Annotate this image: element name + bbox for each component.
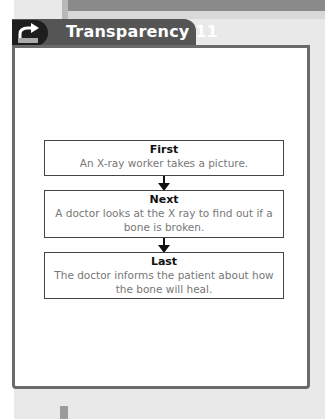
step-label: Next [45, 193, 283, 206]
transparency-icon [12, 20, 48, 46]
background-edge-bottom [60, 406, 68, 419]
step-label: Last [45, 255, 283, 268]
step-text: A doctor looks at the X ray to find out … [45, 206, 283, 234]
step-next: Next A doctor looks at the X ray to find… [44, 190, 284, 238]
background-edge [62, 0, 68, 20]
step-text: The doctor informs the patient about how… [45, 268, 283, 296]
page-title: Transparency 11 [66, 22, 218, 41]
arrow-down-icon [163, 238, 165, 251]
step-first: First An X-ray worker takes a picture. [44, 140, 284, 176]
step-last: Last The doctor informs the patient abou… [44, 252, 284, 299]
background-photo-strip [62, 0, 325, 11]
step-text: An X-ray worker takes a picture. [45, 156, 283, 170]
step-label: First [45, 143, 283, 156]
arrow-down-icon [163, 176, 165, 189]
background-page-edge [68, 11, 325, 19]
